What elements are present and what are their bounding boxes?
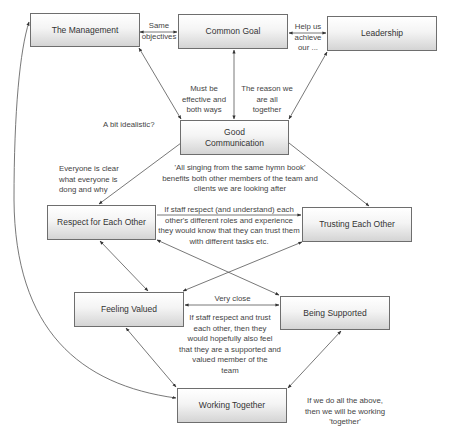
node-good-communication: Good Communication	[180, 120, 289, 155]
node-trusting-each-other: Trusting Each Other	[302, 207, 412, 242]
node-working-together: Working Together	[177, 388, 287, 423]
label-very-close: Very close	[205, 294, 260, 305]
label-must-be-effective: Must be effective and both ways	[175, 84, 233, 116]
label-everyone-clear: Everyone is clear what everyone is dong …	[59, 164, 139, 196]
node-respect-for-each-other: Respect for Each Other	[47, 205, 156, 240]
label-hymn-book: 'All singing from the same hymn book' be…	[160, 163, 320, 195]
node-the-management: The Management	[30, 13, 140, 47]
node-being-supported: Being Supported	[280, 296, 390, 330]
label-staff-respect-understand: If staff respect (and understand) each o…	[155, 205, 303, 247]
node-common-goal: Common Goal	[178, 14, 288, 49]
label-do-all-above: If we do all the above, then we will be …	[300, 396, 390, 428]
label-staff-respect-trust: If staff respect and trust each other, t…	[178, 313, 282, 376]
label-same-objectives: Same objectives	[138, 21, 180, 42]
label-reason-together: The reason we are all together	[236, 84, 298, 116]
node-feeling-valued: Feeling Valued	[74, 292, 184, 327]
label-help-us-achieve: Help us achieve our ...	[288, 22, 328, 54]
label-idealistic: A bit idealistic?	[103, 120, 173, 131]
node-leadership: Leadership	[327, 16, 437, 51]
